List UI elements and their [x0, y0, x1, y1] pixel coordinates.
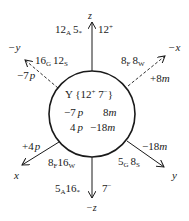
center-row-1-left-num: −7 — [64, 106, 76, 118]
minus-y-inner-b: 12 — [53, 54, 64, 66]
center-charge2: 7 — [96, 88, 104, 100]
minus-x-inner-labels: 8F8W — [121, 55, 145, 66]
minus-x-inner-a-sub: F — [127, 60, 131, 68]
plus-y-outer-label: −18m — [142, 141, 167, 152]
center-charge1: {12 — [75, 88, 91, 100]
diagram-graphics — [0, 0, 189, 221]
center-row-2-right-num: −18 — [90, 121, 107, 133]
center-row-1-left: −7p — [64, 107, 83, 118]
plus-x-outer-num: +4 — [22, 140, 34, 152]
minus-z-left-b: 16 — [66, 182, 77, 194]
minus-z-right-sup: − — [108, 182, 112, 190]
axis-diagram: z 12A5* 12+ −y 16G12S −7p −x 8F8W +8m Y … — [0, 0, 189, 221]
plus-x-axis-label: x — [14, 170, 19, 181]
center-row-2-right-unit: m — [107, 121, 115, 133]
minus-z-axis-label: −z — [86, 203, 97, 213]
minus-x-outer-label: +8m — [150, 73, 170, 84]
minus-x-outer-unit: m — [162, 72, 170, 84]
minus-z-right-label: 7− — [102, 183, 111, 194]
minus-x-axis-label: −x — [168, 42, 180, 53]
plus-z-left-b-sub: * — [79, 29, 83, 37]
minus-y-outer-unit: p — [30, 69, 36, 81]
center-row-2-left-unit: p — [78, 121, 84, 133]
minus-x-outer-num: +8 — [150, 72, 162, 84]
center-close-brace: } — [108, 88, 113, 100]
minus-y-inner-b-sub: S — [64, 60, 68, 68]
minus-y-axis-label: −y — [8, 42, 20, 53]
plus-z-right-value: 12 — [98, 23, 109, 35]
minus-y-inner-a-sub: G — [46, 60, 51, 68]
minus-z-left-labels: 5A16* — [55, 183, 80, 194]
minus-y-outer-label: −7p — [17, 70, 35, 81]
center-row-1-right: 8m — [103, 107, 116, 118]
plus-y-outer-num: −18 — [142, 140, 159, 152]
minus-x-inner-b-sub: W — [138, 60, 145, 68]
plus-z-right-sup: + — [109, 23, 113, 31]
minus-y-inner-a: 16 — [35, 54, 46, 66]
center-row-2-left-num: 4 — [70, 121, 76, 133]
center-row-2-left: 4p — [70, 122, 83, 133]
plus-y-axis-label: y — [172, 170, 177, 181]
plus-x-inner-b-sub: W — [68, 162, 75, 170]
minus-z-left-b-sub: * — [77, 188, 81, 196]
minus-y-outer-num: −7 — [17, 69, 29, 81]
plus-x-outer-unit: p — [35, 140, 41, 152]
plus-y-inner-a-sub: G — [124, 161, 129, 169]
plus-z-left-labels: 12A5* — [55, 24, 82, 35]
plus-z-axis-label: z — [88, 11, 92, 21]
center-row-1-right-unit: m — [109, 106, 117, 118]
minus-y-inner-labels: 16G12S — [35, 55, 68, 66]
center-species: Y — [65, 88, 73, 100]
plus-x-outer-label: +4p — [22, 141, 40, 152]
center-title: Y {12+ 7−} — [65, 89, 113, 100]
plus-y-inner-b-sub: S — [136, 161, 140, 169]
center-row-1-left-unit: p — [78, 106, 84, 118]
central-circle — [49, 71, 135, 157]
plus-y-outer-unit: m — [159, 140, 167, 152]
plus-y-inner-labels: 5G8S — [118, 156, 140, 167]
plus-x-inner-labels: 8F16W — [48, 157, 75, 168]
plus-z-left-a-sub: A — [66, 29, 71, 37]
center-row-2-right: −18m — [90, 122, 115, 133]
plus-x-inner-b: 16 — [57, 156, 68, 168]
plus-z-right-label: 12+ — [98, 24, 113, 35]
plus-z-left-a: 12 — [55, 23, 66, 35]
